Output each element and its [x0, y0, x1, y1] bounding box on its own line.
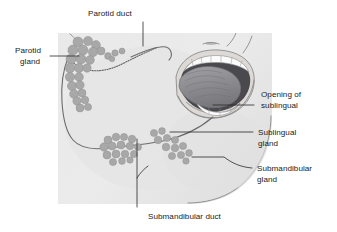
- label-opening-sublingual-line2: sublingual: [261, 101, 298, 110]
- label-submandibular-duct: Submandibular duct: [148, 212, 222, 221]
- label-parotid-gland-line2: gland: [20, 57, 40, 66]
- label-submandibular-gland-line2: gland: [257, 175, 277, 184]
- label-opening-sublingual-line1: Opening of: [261, 90, 302, 99]
- label-parotid-gland-line1: Parotid: [15, 46, 41, 55]
- label-sublingual-gland-line1: Sublingual: [258, 128, 296, 137]
- label-sublingual-gland-line2: gland: [258, 139, 278, 148]
- label-parotid-duct: Parotid duct: [88, 9, 132, 18]
- label-submandibular-gland-line1: Submandibular: [257, 164, 312, 173]
- diagram-canvas: Parotid duct Parotid gland Opening of su…: [0, 0, 337, 232]
- salivary-glands-figure: Parotid duct Parotid gland Opening of su…: [0, 0, 337, 232]
